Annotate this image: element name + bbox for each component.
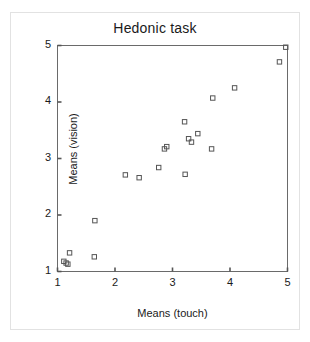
y-tick-label: 1 xyxy=(29,264,51,276)
plot-area: Means (vision) Means (touch) 12345 12345 xyxy=(57,45,288,272)
data-point xyxy=(182,120,186,124)
tick-marks xyxy=(58,46,288,272)
data-point xyxy=(123,173,127,177)
data-point xyxy=(137,176,141,180)
chart-title: Hedonic task xyxy=(0,20,310,36)
y-tick-label: 5 xyxy=(29,38,51,50)
data-point xyxy=(67,251,71,255)
y-axis-label: Means (vision) xyxy=(67,69,79,229)
data-point xyxy=(183,172,187,176)
x-axis-label: Means (touch) xyxy=(57,307,288,319)
x-tick-label: 5 xyxy=(277,276,299,288)
y-tick-label: 2 xyxy=(29,207,51,219)
x-tick-label: 1 xyxy=(47,276,69,288)
figure-container: Hedonic task Means (vision) Means (touch… xyxy=(0,0,310,342)
data-point xyxy=(92,255,96,259)
data-point xyxy=(209,147,213,151)
data-point xyxy=(196,131,200,135)
y-tick-label: 4 xyxy=(29,94,51,106)
scatter-plot-svg xyxy=(57,45,288,272)
x-tick-label: 4 xyxy=(219,276,241,288)
data-point xyxy=(157,165,161,169)
y-tick-label: 3 xyxy=(29,151,51,163)
axis-frame xyxy=(58,46,288,272)
x-tick-label: 2 xyxy=(104,276,126,288)
data-point xyxy=(93,218,97,222)
data-point xyxy=(232,86,236,90)
x-tick-label: 3 xyxy=(162,276,184,288)
plot-frame-rect xyxy=(58,46,288,272)
data-point xyxy=(277,60,281,64)
data-point-group xyxy=(62,45,288,266)
data-point xyxy=(211,96,215,100)
